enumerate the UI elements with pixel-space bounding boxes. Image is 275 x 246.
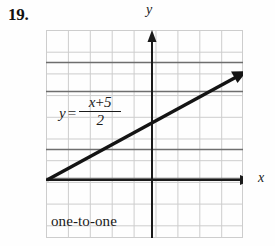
coordinate-graph	[46, 30, 243, 238]
numerator-constant: 5	[104, 94, 112, 110]
fraction-denominator: 2	[96, 112, 104, 129]
exercise-figure: 19.	[0, 0, 275, 246]
y-axis	[148, 30, 157, 238]
equation-fraction: x+5 2	[79, 95, 121, 130]
grid-horizontal-lines	[46, 31, 243, 238]
grid-vertical-lines	[47, 30, 243, 238]
equation-label: y = x+5 2	[59, 96, 121, 131]
fraction-numerator: x+5	[87, 95, 114, 111]
page-title: 19.	[8, 5, 29, 25]
equation-equals-sign: =	[68, 106, 76, 121]
numerator-plus-sign: +	[95, 94, 103, 110]
equation-lhs: y	[59, 106, 66, 121]
graph-canvas	[46, 30, 243, 238]
x-axis-label: x	[258, 170, 264, 186]
y-axis-label: y	[146, 2, 152, 18]
x-axis	[46, 175, 243, 185]
answer-label: one-to-one	[51, 213, 117, 230]
